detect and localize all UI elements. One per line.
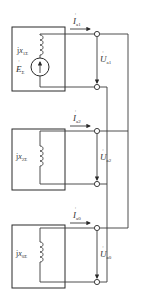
current-label: Ia2 — [72, 113, 81, 124]
voltage-label: Ua0 — [100, 249, 112, 260]
network-zero-sequence: Ia0 · Ua0 · jx0Σ — [12, 204, 128, 288]
svg-text:·: · — [102, 146, 104, 153]
voltage-label: Ua2 — [100, 152, 112, 163]
terminal-top — [94, 225, 99, 230]
reactance-label: jx2Σ — [15, 152, 27, 162]
inductor-icon — [40, 146, 43, 166]
svg-text:·: · — [18, 57, 20, 64]
terminal-bottom — [94, 181, 99, 186]
inductor-icon — [40, 242, 43, 262]
source-label: EΣ — [15, 64, 25, 75]
terminal-top — [94, 31, 99, 36]
reactance-label: jx0Σ — [15, 249, 27, 259]
reactance-label: jjxx1Σ — [16, 46, 28, 56]
svg-text:·: · — [75, 10, 77, 17]
sequence-network-diagram: Ia1 · Ua1 · jjxx1Σ EΣ · Ia2 · Ua2 · jx2Σ — [0, 0, 142, 300]
voltage-label: Ua1 — [100, 54, 112, 65]
current-label: Ia0 — [72, 210, 81, 221]
terminal-top — [94, 128, 99, 133]
network-negative-sequence: Ia2 · Ua2 · jx2Σ — [12, 107, 128, 190]
inductor-icon — [40, 35, 43, 55]
terminal-bottom — [94, 84, 99, 89]
current-label: Ia1 — [72, 16, 81, 27]
svg-text:·: · — [75, 204, 77, 211]
svg-text:·: · — [102, 48, 104, 55]
terminal-bottom — [94, 279, 99, 284]
svg-text:·: · — [102, 243, 104, 250]
network-positive-sequence: Ia1 · Ua1 · jjxx1Σ EΣ · — [12, 10, 128, 91]
svg-text:·: · — [75, 107, 77, 114]
